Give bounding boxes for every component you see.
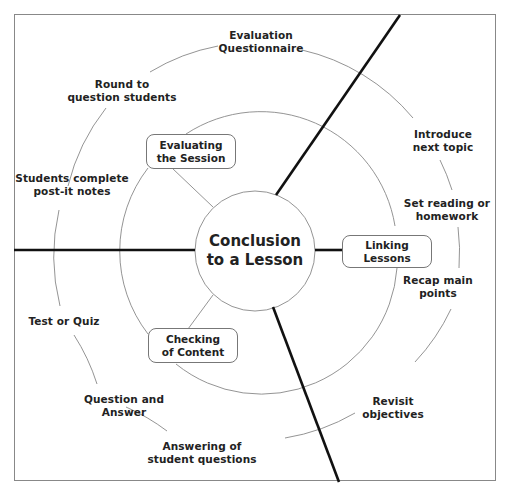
label-line: Set reading or: [404, 197, 490, 210]
label-line: Round to: [67, 78, 176, 91]
label-recap-main-points: Recap main points: [403, 274, 473, 300]
box-line: of Content: [162, 346, 224, 359]
label-question-and-answer: Question and Answer: [84, 393, 164, 419]
label-evaluation-questionnaire: Evaluation Questionnaire: [219, 29, 304, 55]
center-title-line1: Conclusion: [207, 232, 304, 251]
label-line: Introduce: [413, 128, 474, 141]
label-line: Answering of: [147, 440, 256, 453]
label-line: next topic: [413, 141, 474, 154]
label-line: Revisit: [362, 395, 424, 408]
box-evaluating-the-session: Evaluating the Session: [146, 134, 236, 169]
label-line: Recap main: [403, 274, 473, 287]
box-line: the Session: [157, 152, 226, 165]
label-introduce-next-topic: Introduce next topic: [413, 128, 474, 154]
label-revisit-objectives: Revisit objectives: [362, 395, 424, 421]
label-line: student questions: [147, 453, 256, 466]
center-title: Conclusion to a Lesson: [207, 232, 304, 270]
box-line: Lessons: [363, 252, 410, 265]
label-line: Question and: [84, 393, 164, 406]
label-answering-student-questions: Answering of student questions: [147, 440, 256, 466]
box-linking-lessons: Linking Lessons: [342, 235, 432, 268]
label-line: Questionnaire: [219, 42, 304, 55]
label-line: points: [403, 287, 473, 300]
label-line: Answer: [84, 406, 164, 419]
label-line: question students: [67, 91, 176, 104]
box-line: Linking: [363, 239, 410, 252]
label-line: Test or Quiz: [28, 315, 99, 328]
label-line: Students complete: [15, 172, 129, 185]
label-round-to-question-students: Round to question students: [67, 78, 176, 104]
box-line: Evaluating: [157, 139, 226, 152]
label-line: homework: [404, 210, 490, 223]
box-checking-of-content: Checking of Content: [148, 328, 238, 363]
label-set-reading-or-homework: Set reading or homework: [404, 197, 490, 223]
label-test-or-quiz: Test or Quiz: [28, 315, 99, 328]
label-line: Evaluation: [219, 29, 304, 42]
label-line: post-it notes: [15, 185, 129, 198]
box-line: Checking: [162, 333, 224, 346]
center-title-line2: to a Lesson: [207, 251, 304, 270]
label-students-complete-postit: Students complete post-it notes: [15, 172, 129, 198]
label-line: objectives: [362, 408, 424, 421]
